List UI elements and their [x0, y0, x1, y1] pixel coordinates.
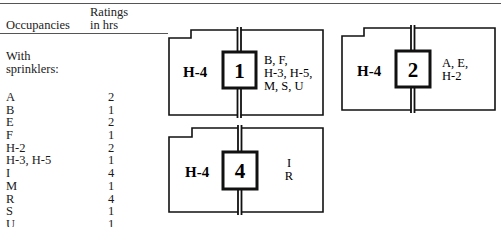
left-occupancy-label: H-4	[357, 63, 382, 79]
right-occupancy-line: H-3, H-5,	[264, 66, 312, 80]
right-occupancy-line: R	[285, 169, 294, 183]
right-occupancy-line: A, E,	[442, 56, 468, 70]
diagram-1: 1 H-4 B, F, H-3, H-5, M, S, U	[169, 27, 323, 118]
separation-diagrams: 1 H-4 B, F, H-3, H-5, M, S, U 2 H-4 A, E…	[0, 0, 501, 227]
right-occupancy-line: M, S, U	[264, 79, 304, 93]
rating-label: 4	[235, 159, 246, 183]
diagram-2: 2 H-4 A, E, H-2	[342, 25, 495, 113]
right-occupancy-line: B, F,	[264, 53, 288, 67]
right-occupancy-line: H-2	[442, 69, 461, 83]
rating-label: 1	[234, 59, 245, 83]
left-occupancy-label: H-4	[185, 164, 210, 180]
right-occupancy-line: I	[287, 156, 291, 170]
left-occupancy-label: H-4	[183, 64, 208, 80]
diagram-3: 4 H-4 I R	[169, 125, 323, 215]
rating-label: 2	[408, 58, 419, 82]
